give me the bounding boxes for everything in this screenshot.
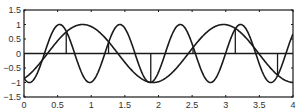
y-tick-label: 0 <box>16 49 21 59</box>
x-axis-tick-labels: 00.511.522.533.54 <box>21 100 295 110</box>
y-tick-label: −0.5 <box>3 63 21 73</box>
x-tick-label: 0.5 <box>51 100 64 110</box>
stem-plot-chart: 00.511.522.533.54 −1.5−1−0.500.511.5 <box>0 0 304 112</box>
y-axis-tick-labels: −1.5−1−0.500.511.5 <box>3 5 21 102</box>
x-tick-label: 3.5 <box>253 100 266 110</box>
x-tick-label: 2.5 <box>186 100 199 110</box>
x-tick-label: 1 <box>89 100 94 110</box>
y-tick-label: 0.5 <box>8 34 21 44</box>
x-tick-label: 1.5 <box>119 100 132 110</box>
y-tick-label: 1.5 <box>8 5 21 15</box>
x-tick-label: 3 <box>223 100 228 110</box>
y-tick-label: 1 <box>16 20 21 30</box>
y-tick-label: −1 <box>11 78 21 88</box>
x-tick-label: 4 <box>290 100 295 110</box>
plot-area <box>24 25 293 83</box>
y-tick-label: −1.5 <box>3 92 21 102</box>
x-tick-label: 0 <box>21 100 26 110</box>
x-tick-label: 2 <box>156 100 161 110</box>
